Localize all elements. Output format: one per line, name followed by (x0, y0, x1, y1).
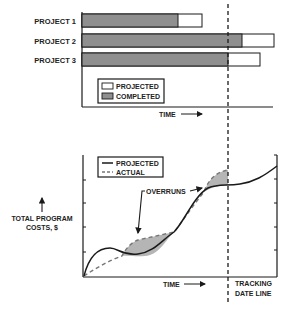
cost-y-label-line1: TOTAL PROGRAM (11, 215, 72, 222)
cost-chart: PROJECTED ACTUAL OVERRUNS TOTAL PROGRAM … (11, 155, 277, 288)
legend-swatch-completed (102, 93, 113, 99)
projected-cost-curve (84, 166, 277, 276)
project-2-label: PROJECT 2 (34, 37, 76, 46)
overrun-arrow-2-icon (190, 188, 202, 191)
cost-y-label-line2: COSTS, $ (26, 224, 58, 232)
cost-x-axis-label: TIME (163, 281, 180, 288)
project-1-label: PROJECT 1 (34, 17, 76, 26)
cost-legend-actual-label: ACTUAL (116, 169, 145, 176)
overruns-annotation: OVERRUNS (146, 188, 186, 195)
legend-projected-label: PROJECTED (116, 83, 159, 90)
diagram-canvas: PROJECT 1 PROJECT 2 PROJECT 3 PROJECTED … (0, 0, 291, 311)
project-3-label: PROJECT 3 (34, 56, 76, 65)
legend-swatch-projected (102, 83, 113, 89)
gantt-legend: PROJECTED COMPLETED (98, 79, 164, 103)
tracking-label-line2: DATE LINE (235, 290, 272, 297)
legend-completed-label: COMPLETED (116, 93, 160, 100)
overrun-arrow-1-icon (138, 191, 145, 233)
actual-cost-curve (84, 170, 228, 276)
gantt-x-axis-label: TIME (159, 111, 176, 118)
tracking-date-line: TRACKING DATE LINE (228, 4, 272, 302)
gantt-bar-project-3 (82, 53, 260, 66)
tracking-label-line1: TRACKING (235, 280, 272, 287)
overrun-region-1 (122, 232, 174, 256)
gantt-chart: PROJECT 1 PROJECT 2 PROJECT 3 PROJECTED … (34, 12, 274, 118)
cost-legend: PROJECTED ACTUAL (98, 157, 163, 177)
cost-legend-projected-label: PROJECTED (116, 160, 159, 167)
gantt-bar-project-1 (82, 14, 202, 27)
gantt-bar-project-2 (82, 34, 274, 47)
